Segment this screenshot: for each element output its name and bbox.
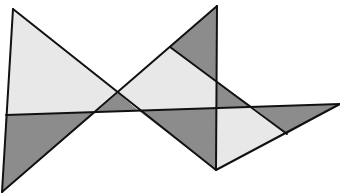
tessellation-svg xyxy=(0,0,340,194)
vertical-line xyxy=(216,6,217,170)
shaded-regions xyxy=(2,6,340,192)
top-left-light-triangle xyxy=(6,9,118,115)
geometric-figure xyxy=(0,0,340,194)
